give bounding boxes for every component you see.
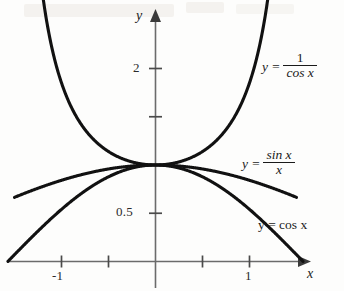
curve-label-sinc-denominator: x (263, 163, 294, 177)
plot-area (0, 0, 344, 291)
x-tick-label-neg1: -1 (52, 268, 63, 284)
curve-label-sinc: y =sin xx (242, 149, 295, 178)
figure-container: y x 2 0.5 -1 1 y =1cos x y =sin xx y = c… (0, 0, 344, 291)
curve-label-secant: y =1cos x (262, 52, 317, 81)
curve-label-sinc-lhs: y = (242, 157, 260, 171)
curve-label-cosine: y = cos x (258, 218, 307, 232)
y-axis-arrowhead (150, 9, 161, 22)
x-tick-label-1: 1 (245, 268, 252, 284)
curve-label-secant-numerator: 1 (283, 51, 316, 66)
curve-label-sinc-fraction: sin xx (263, 148, 294, 177)
y-tick-label-2: 2 (133, 60, 140, 76)
curve-label-secant-lhs: y = (262, 60, 280, 74)
curve-label-secant-denominator: cos x (283, 66, 316, 80)
y-axis-label: y (136, 8, 142, 24)
curve-label-secant-fraction: 1cos x (283, 51, 316, 80)
curve-label-sinc-numerator: sin x (263, 148, 294, 163)
y-tick-label-0.5: 0.5 (116, 204, 133, 220)
x-axis-label: x (307, 266, 313, 282)
